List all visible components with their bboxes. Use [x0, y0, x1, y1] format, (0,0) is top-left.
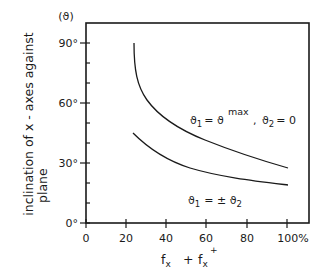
- y-tick-label: 90°: [59, 37, 79, 50]
- y-axis-ticks: [80, 43, 90, 223]
- svg-text:ϑ2= 0: ϑ2= 0: [262, 114, 296, 129]
- x-axis-title: fx + fx +: [161, 245, 218, 269]
- y-axis-title: inclination of x - axes against plane: [21, 32, 50, 216]
- chart: 0° 30° 60° 90° (ϑ) 0 20 40 60 80 100% fx…: [0, 0, 324, 280]
- svg-text:inclination of x - axes agains: inclination of x - axes against: [21, 32, 36, 216]
- svg-text:max: max: [228, 106, 249, 117]
- y-tick-label: 0°: [66, 217, 79, 230]
- svg-text:,: ,: [253, 114, 257, 127]
- svg-text:plane: plane: [35, 168, 50, 203]
- series-line-theta-max: [134, 43, 288, 168]
- x-tick-label: 100%: [277, 232, 308, 245]
- x-tick-label: 0: [83, 232, 90, 245]
- x-tick-label: 20: [119, 232, 133, 245]
- svg-text:ϑ1= ± ϑ2: ϑ1= ± ϑ2: [188, 194, 242, 209]
- svg-text:ϑ1= ϑ: ϑ1= ϑ: [190, 114, 224, 129]
- annotation-theta-pm: ϑ1= ± ϑ2: [188, 194, 242, 209]
- svg-text:fx: fx: [161, 252, 171, 269]
- svg-text:+: +: [210, 245, 218, 255]
- x-tick-label: 80: [240, 232, 254, 245]
- y-unit-label: (ϑ): [58, 10, 73, 23]
- svg-text:fx: fx: [198, 252, 208, 269]
- y-tick-label: 60°: [59, 97, 79, 110]
- x-tick-label: 60: [199, 232, 213, 245]
- annotation-theta-max: ϑ1= ϑ max , ϑ2= 0: [190, 106, 296, 129]
- svg-text:+: +: [183, 252, 193, 267]
- y-tick-label: 30°: [59, 157, 79, 170]
- series-line-theta-pm: [133, 133, 288, 185]
- x-tick-label: 40: [159, 232, 173, 245]
